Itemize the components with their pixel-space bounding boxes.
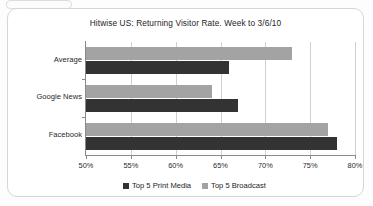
x-tick-label: 75% — [303, 161, 318, 170]
y-tick-mark — [82, 79, 86, 80]
x-tick-label: 70% — [258, 161, 273, 170]
legend-item[interactable]: Top 5 Print Media — [123, 181, 191, 190]
bar-facebook-top-5-print-media — [86, 137, 337, 150]
y-axis-category-labels: Average Google News Facebook — [8, 42, 82, 155]
chart-panel: Hitwise US: Returning Visitor Rate. Week… — [7, 8, 364, 197]
chart-legend: Top 5 Print MediaTop 5 Broadcast — [8, 181, 373, 190]
legend-swatch-icon — [202, 183, 208, 189]
bar-average-top-5-broadcast — [86, 47, 292, 60]
x-tick-mark — [131, 156, 132, 159]
x-tick-label: 80% — [348, 161, 363, 170]
legend-label: Top 5 Broadcast — [211, 181, 266, 190]
legend-item[interactable]: Top 5 Broadcast — [202, 181, 266, 190]
x-tick-mark — [355, 156, 356, 159]
category-label-facebook: Facebook — [49, 130, 82, 139]
x-tick-label: 55% — [123, 161, 138, 170]
legend-swatch-icon — [123, 183, 129, 189]
x-tick-mark — [310, 156, 311, 159]
legend-label: Top 5 Print Media — [132, 181, 191, 190]
x-tick-label: 60% — [168, 161, 183, 170]
chart-title: Hitwise US: Returning Visitor Rate. Week… — [8, 18, 363, 28]
bar-average-top-5-print-media — [86, 61, 229, 74]
x-tick-label: 50% — [79, 161, 94, 170]
category-label-average: Average — [54, 55, 82, 64]
plot-area — [86, 42, 355, 155]
x-axis-tick-labels: 50%55%60%65%70%75%80% — [8, 161, 373, 173]
category-label-google-news: Google News — [36, 92, 82, 101]
bar-facebook-top-5-broadcast — [86, 123, 328, 136]
x-tick-mark — [221, 156, 222, 159]
bar-google-news-top-5-broadcast — [86, 85, 212, 98]
gridline-80% — [355, 42, 356, 155]
x-tick-mark — [86, 156, 87, 159]
x-tick-mark — [265, 156, 266, 159]
y-tick-mark — [82, 117, 86, 118]
x-tick-mark — [176, 156, 177, 159]
bar-google-news-top-5-print-media — [86, 99, 238, 112]
chart-panel-root: Hitwise US: Returning Visitor Rate. Week… — [0, 0, 373, 206]
x-tick-label: 65% — [213, 161, 228, 170]
